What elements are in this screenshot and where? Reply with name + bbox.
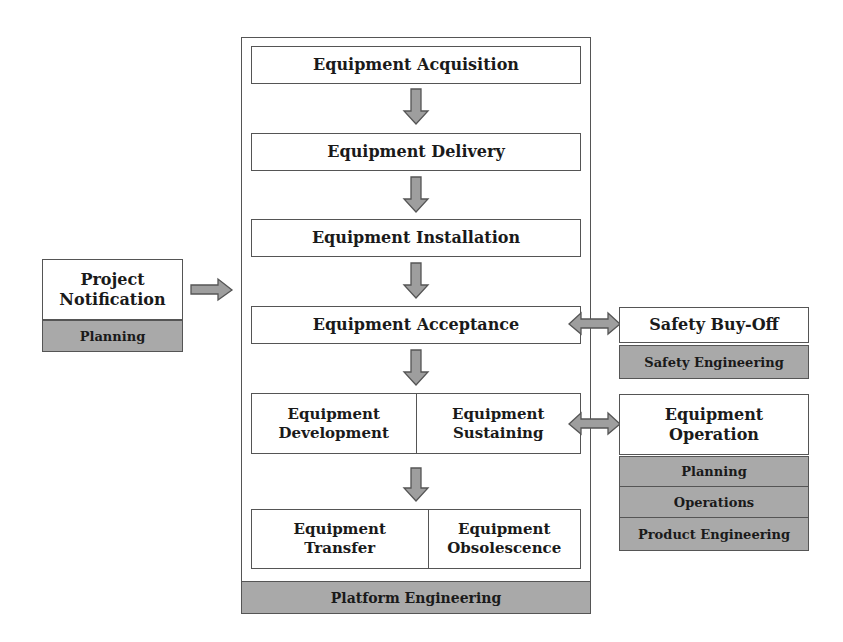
step-transfer-obsolescence: Equipment Transfer Equipment Obsolescenc…	[251, 509, 581, 569]
owner-label: Operations	[674, 495, 754, 510]
step-label: Equipment Acceptance	[313, 315, 520, 334]
equipment-operation-box: Equipment Operation	[619, 394, 809, 455]
step-equipment-obsolescence: Equipment Obsolescence	[429, 510, 581, 568]
step-equipment-sustaining: Equipment Sustaining	[417, 394, 581, 453]
step-equipment-delivery: Equipment Delivery	[251, 133, 581, 171]
double-arrow-icon	[569, 313, 621, 335]
step-equipment-development: Equipment Development	[252, 394, 417, 453]
step-equipment-installation: Equipment Installation	[251, 219, 581, 257]
safety-buy-off-box: Safety Buy-Off	[619, 307, 809, 343]
owner-label: Product Engineering	[638, 527, 790, 542]
step-label: Equipment Installation	[312, 228, 520, 247]
step-equipment-acquisition: Equipment Acquisition	[251, 46, 581, 84]
owner-label: Planning	[80, 329, 146, 344]
arrow-down-icon	[403, 350, 429, 386]
arrow-down-icon	[403, 177, 429, 213]
arrow-down-icon	[403, 263, 429, 299]
double-arrow-icon	[569, 413, 621, 435]
project-notification-box: Project Notification	[42, 259, 183, 320]
step-equipment-acceptance: Equipment Acceptance	[251, 306, 581, 344]
arrow-down-icon	[403, 89, 429, 125]
owner-label: Platform Engineering	[331, 590, 501, 606]
owner-label: Planning	[681, 464, 747, 479]
owner-product-engineering: Product Engineering	[619, 518, 809, 551]
owner-safety-engineering: Safety Engineering	[619, 345, 809, 379]
arrow-right-icon	[191, 279, 233, 301]
project-notification-label: Project Notification	[51, 270, 174, 310]
step-label: Equipment Acquisition	[313, 55, 519, 74]
safety-buy-off-label: Safety Buy-Off	[649, 315, 778, 334]
owner-platform-engineering: Platform Engineering	[241, 581, 591, 614]
step-equipment-transfer: Equipment Transfer	[252, 510, 429, 568]
owner-planning-operation: Planning	[619, 456, 809, 487]
owner-label: Safety Engineering	[644, 355, 783, 370]
step-development-sustaining: Equipment Development Equipment Sustaini…	[251, 393, 581, 454]
step-label: Equipment Delivery	[327, 142, 504, 161]
owner-operations: Operations	[619, 487, 809, 518]
equipment-operation-label: Equipment Operation	[650, 405, 778, 445]
owner-planning: Planning	[42, 320, 183, 352]
arrow-down-icon	[403, 468, 429, 502]
